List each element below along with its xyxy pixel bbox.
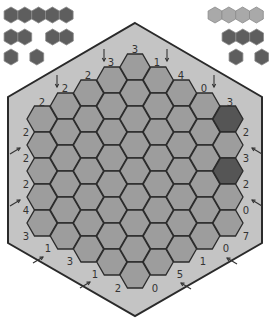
clue-number: 2 (85, 70, 91, 81)
hex-puzzle-board[interactable]: 331242023222322403710311520 (0, 0, 269, 321)
legend-piece-hex (208, 7, 222, 23)
legend-piece-hex (4, 49, 18, 65)
clue-number: 2 (62, 83, 68, 94)
legend-piece-hex (30, 49, 44, 65)
hex-puzzle-stage: 331242023222322403710311520 (0, 0, 269, 321)
legend-piece-hex (46, 29, 60, 45)
clue-number: 2 (23, 179, 29, 190)
legend-piece-hex (4, 29, 18, 45)
legend-piece-hex (222, 29, 236, 45)
clue-number: 1 (200, 256, 206, 267)
legend-piece-hex (18, 7, 32, 23)
clue-number: 0 (201, 83, 207, 94)
hex-cell[interactable] (213, 184, 243, 210)
hex-cell-filled[interactable] (213, 106, 243, 132)
legend-piece-hex (236, 29, 250, 45)
legend-piece-hex (46, 7, 60, 23)
clue-number: 5 (177, 269, 183, 280)
clue-number: 1 (45, 243, 51, 254)
legend-piece-hex (222, 7, 236, 23)
legend-piece-hex (250, 29, 264, 45)
legend-piece-hex (250, 7, 264, 23)
hex-cell-filled[interactable] (213, 158, 243, 184)
clue-number: 2 (23, 127, 29, 138)
clue-number: 2 (23, 153, 29, 164)
clue-number: 3 (23, 231, 29, 242)
clue-number: 3 (243, 153, 249, 164)
clue-number: 0 (223, 243, 229, 254)
legend-piece-hex (60, 29, 74, 45)
hex-cell[interactable] (213, 210, 243, 236)
clue-number: 1 (92, 269, 98, 280)
legend-piece-hex (4, 7, 18, 23)
piece-legend-right (208, 7, 269, 65)
legend-piece-hex (18, 29, 32, 45)
clue-number: 1 (154, 57, 160, 68)
legend-piece-hex (255, 49, 269, 65)
clue-number: 4 (23, 205, 29, 216)
legend-piece-hex (236, 7, 250, 23)
clue-number: 3 (227, 97, 233, 108)
clue-number: 2 (243, 179, 249, 190)
clue-number: 2 (243, 127, 249, 138)
legend-piece-hex (32, 7, 46, 23)
hex-cell[interactable] (213, 132, 243, 158)
clue-number: 3 (67, 256, 73, 267)
legend-piece-hex (59, 7, 73, 23)
clue-number: 7 (243, 231, 249, 242)
clue-number: 4 (178, 70, 184, 81)
clue-number: 3 (132, 44, 138, 55)
clue-number: 2 (39, 97, 45, 108)
legend-piece-hex (229, 49, 243, 65)
piece-legend-left (4, 7, 73, 65)
clue-number: 2 (115, 283, 121, 294)
clue-number: 0 (243, 205, 249, 216)
clue-number: 3 (108, 57, 114, 68)
clue-number: 0 (152, 283, 158, 294)
